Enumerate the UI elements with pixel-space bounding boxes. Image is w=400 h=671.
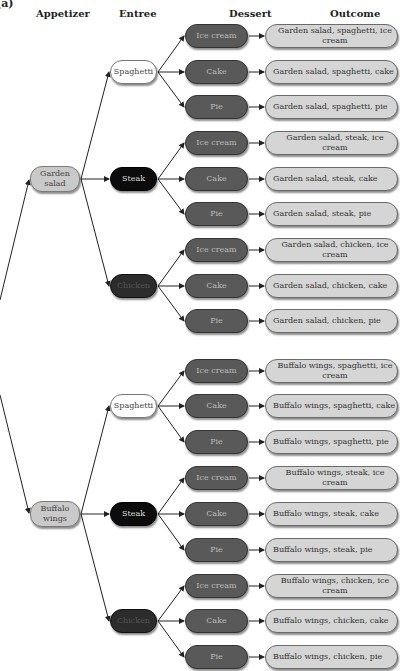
dessert-node: Ice cream	[185, 466, 248, 490]
dessert-node: Cake	[185, 60, 248, 84]
outcome-node: Garden salad, chicken, pie	[265, 309, 398, 333]
dessert-node: Cake	[185, 394, 248, 418]
appetizer-label-line2: salad	[44, 179, 65, 188]
outcome-node: Buffalo wings, steak, ice cream	[265, 466, 398, 490]
outcome-node: Buffalo wings, spaghetti, cake	[265, 394, 398, 418]
dessert-node: Ice cream	[185, 359, 248, 383]
dessert-node: Pie	[185, 430, 248, 454]
dessert-node: Pie	[185, 95, 248, 119]
outcome-node: Garden salad, steak, cake	[265, 167, 398, 191]
outcome-node: Buffalo wings, spaghetti, ice cream	[265, 359, 398, 383]
appetizer-node-garden-salad: Gardensalad	[30, 166, 80, 192]
entree-node-spaghetti: Spaghetti	[110, 394, 157, 418]
outcome-node: Buffalo wings, spaghetti, pie	[265, 430, 398, 454]
appetizer-node-buffalo-wings: Buffalowings	[30, 501, 80, 527]
outcome-node: Buffalo wings, chicken, pie	[265, 645, 398, 669]
outcome-node: Garden salad, steak, ice cream	[265, 131, 398, 155]
appetizer-label-line1: Garden	[40, 169, 70, 178]
dessert-node: Pie	[185, 538, 248, 562]
entree-node-spaghetti: Spaghetti	[110, 60, 157, 84]
outcome-node: Garden salad, spaghetti, cake	[265, 60, 398, 84]
dessert-node: Cake	[185, 167, 248, 191]
outcome-node: Buffalo wings, chicken, cake	[265, 609, 398, 633]
outcome-node: Buffalo wings, steak, cake	[265, 502, 398, 526]
entree-node-steak: Steak	[110, 502, 157, 526]
outcome-node: Garden salad, chicken, ice cream	[265, 238, 398, 262]
dessert-node: Pie	[185, 645, 248, 669]
outcome-node: Garden salad, spaghetti, ice cream	[265, 24, 398, 48]
dessert-node: Ice cream	[185, 574, 248, 598]
outcome-node: Buffalo wings, chicken, ice cream	[265, 574, 398, 598]
entree-node-chicken: Chicken	[110, 274, 157, 298]
dessert-node: Ice cream	[185, 131, 248, 155]
dessert-node: Cake	[185, 609, 248, 633]
outcome-node: Buffalo wings, steak, pie	[265, 538, 398, 562]
dessert-node: Pie	[185, 309, 248, 333]
appetizer-label-line2: wings	[43, 514, 67, 523]
dessert-node: Cake	[185, 502, 248, 526]
outcome-node: Garden salad, steak, pie	[265, 202, 398, 226]
dessert-node: Cake	[185, 274, 248, 298]
outcome-node: Garden salad, chicken, cake	[265, 274, 398, 298]
entree-node-chicken: Chicken	[110, 609, 157, 633]
dessert-node: Ice cream	[185, 238, 248, 262]
dessert-node: Pie	[185, 202, 248, 226]
dessert-node: Ice cream	[185, 24, 248, 48]
entree-node-steak: Steak	[110, 167, 157, 191]
appetizer-label-line1: Buffalo	[41, 504, 70, 513]
outcome-node: Garden salad, spaghetti, pie	[265, 95, 398, 119]
